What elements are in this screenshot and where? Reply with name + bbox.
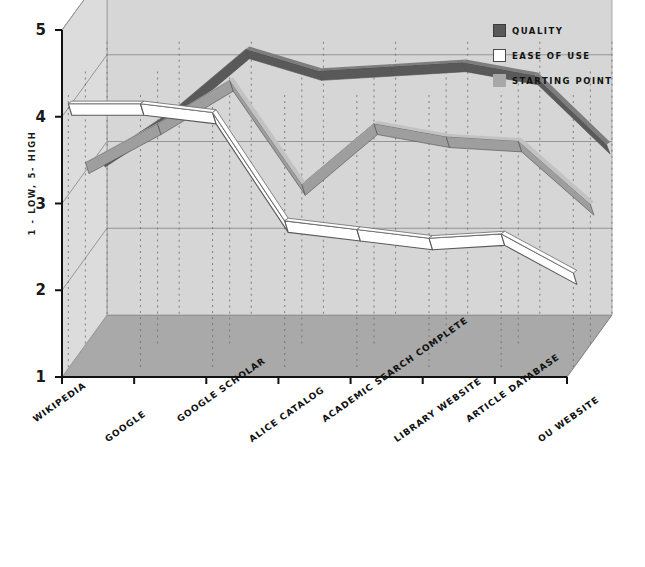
legend-swatch-icon <box>493 49 506 62</box>
y-axis-tick-label: 2 <box>24 281 46 299</box>
legend-label: QUALITY <box>512 26 563 36</box>
y-axis-tick-label: 1 <box>24 368 46 386</box>
legend-label: EASE OF USE <box>512 51 591 61</box>
y-axis-title: 1 - LOW, 5- HIGH <box>27 113 37 253</box>
side-wall-panel <box>62 0 107 377</box>
legend-item: EASE OF USE <box>493 43 625 68</box>
ribbon-segment-top <box>68 101 144 104</box>
floor-panel <box>62 315 612 377</box>
chart-3d-line: 1 - LOW, 5- HIGH 54321 WIKIPEDIAGOOGLEGO… <box>0 0 645 567</box>
y-axis-tick-label: 3 <box>24 195 46 213</box>
legend-swatch-icon <box>493 24 506 37</box>
legend-item: STARTING POINT <box>493 68 625 93</box>
y-axis-tick-label: 4 <box>24 108 46 126</box>
legend-swatch-icon <box>493 74 506 87</box>
legend-item: QUALITY <box>493 18 625 43</box>
ribbon-segment <box>68 104 144 116</box>
y-axis-tick-label: 5 <box>24 21 46 39</box>
chart-legend: QUALITYEASE OF USESTARTING POINT <box>493 18 625 93</box>
legend-label: STARTING POINT <box>512 76 613 86</box>
